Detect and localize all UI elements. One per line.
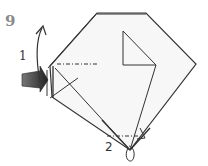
- step-label-1: 1: [19, 49, 27, 63]
- step-label-2: 2: [105, 140, 113, 154]
- paper-outline: [48, 13, 196, 150]
- origami-fold-diagram: [0, 0, 208, 166]
- push-arrow-icon: [22, 66, 48, 92]
